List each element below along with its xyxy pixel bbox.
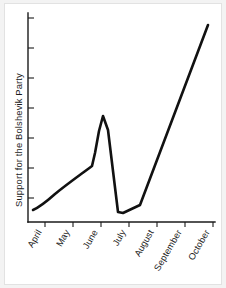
x-tick-label-may: May (54, 228, 72, 249)
y-axis-ticks (28, 18, 34, 198)
y-axis-label: Support for the Bolshevik Party (13, 73, 24, 207)
x-axis-tick-labels: April May June July August September Oct… (26, 228, 212, 273)
y-axis-label-text: Support for the Bolshevik Party (13, 73, 24, 207)
x-tick-label-july: July (111, 228, 128, 248)
x-tick-label-june: June (81, 228, 100, 251)
x-axis-ticks (45, 222, 213, 227)
x-tick-label-october: October (186, 228, 211, 262)
x-tick-label-september: September (152, 228, 184, 273)
data-series-line (33, 25, 208, 213)
figure-root: Support for the Bolshevik Party (0, 0, 226, 288)
x-tick-label-april: April (26, 228, 44, 249)
line-chart: Support for the Bolshevik Party (0, 0, 226, 288)
x-tick-label-august: August (132, 228, 155, 259)
